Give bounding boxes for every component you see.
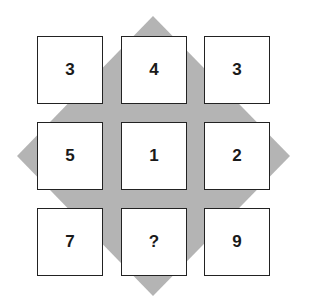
grid-cell-r3c3: 9 (204, 208, 270, 276)
grid-cell-r1c1: 3 (37, 36, 103, 104)
grid-cell-r2c1: 5 (37, 122, 103, 190)
grid-cell-r1c2: 4 (121, 36, 187, 104)
grid-cell-r3c2-unknown: ? (121, 208, 187, 276)
grid-cell-r1c3: 3 (204, 36, 270, 104)
grid-cell-r2c2: 1 (121, 122, 187, 190)
grid-cell-r2c3: 2 (204, 122, 270, 190)
grid-cell-r3c1: 7 (37, 208, 103, 276)
